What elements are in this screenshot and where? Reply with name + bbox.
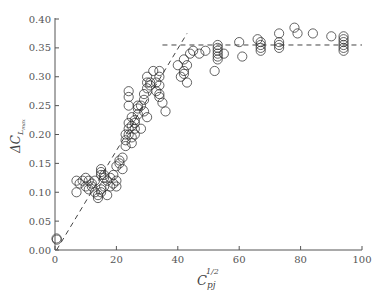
x-axis: 020406080100 (52, 246, 372, 265)
linear-trend-line (57, 33, 187, 250)
data-point-marker (127, 139, 136, 148)
data-point-marker (143, 72, 152, 81)
y-tick-label: 0.10 (29, 187, 51, 198)
y-axis-title: ΔCLmax (9, 119, 26, 154)
scatter-chart: 0.000.050.100.150.200.250.300.350.40 020… (0, 0, 382, 297)
y-tick-label: 0.05 (29, 216, 51, 227)
y-tick-label: 0.40 (29, 14, 51, 25)
data-point-marker (293, 29, 302, 38)
x-tick-label: 0 (52, 254, 58, 265)
y-tick-label: 0.20 (29, 129, 51, 140)
data-point-marker (136, 124, 145, 133)
x-tick-label: 20 (110, 254, 123, 265)
data-point-marker (121, 141, 130, 150)
x-title-sup: 1/2 (206, 267, 219, 276)
data-point-marker (118, 165, 127, 174)
data-point-marker (139, 107, 148, 116)
data-point-marker (124, 92, 133, 101)
data-point-marker (72, 188, 81, 197)
data-point-marker (103, 191, 112, 200)
data-point-marker (308, 29, 317, 38)
data-point-marker (173, 61, 182, 70)
y-title-subsub: max (20, 119, 26, 130)
data-point-marker (238, 52, 247, 61)
y-tick-label: 0.15 (29, 158, 51, 169)
data-point-marker (182, 78, 191, 87)
data-point-marker (124, 101, 133, 110)
data-point-marker (161, 107, 170, 116)
data-point-marker (195, 49, 204, 58)
data-point-marker (143, 113, 152, 122)
data-point-marker (327, 32, 336, 41)
y-tick-label: 0.00 (29, 245, 51, 256)
data-point-marker (179, 55, 188, 64)
x-axis-title: Cpj 1/2 (197, 267, 219, 290)
data-point-marker (201, 46, 210, 55)
y-tick-label: 0.30 (29, 71, 51, 82)
x-tick-label: 60 (233, 254, 246, 265)
data-point-marker (124, 87, 133, 96)
y-tick-label: 0.25 (29, 100, 51, 111)
y-axis: 0.000.050.100.150.200.250.300.350.40 (29, 14, 59, 256)
x-tick-label: 40 (171, 254, 184, 265)
data-point-marker (210, 66, 219, 75)
data-point-marker (155, 66, 164, 75)
data-point-marker (139, 89, 148, 98)
data-point-marker (182, 61, 191, 70)
y-title-main: ΔC (9, 135, 23, 154)
x-title-sub: pj (207, 280, 216, 290)
reference-lines (57, 33, 362, 250)
data-point-marker (219, 49, 228, 58)
data-point-marker (290, 23, 299, 32)
x-tick-label: 100 (352, 254, 371, 265)
svg-text:ΔCLmax: ΔCLmax (9, 119, 26, 154)
data-points (52, 23, 348, 244)
x-tick-label: 80 (294, 254, 307, 265)
data-point-marker (133, 110, 142, 119)
y-tick-label: 0.35 (29, 42, 51, 53)
data-point-marker (158, 98, 167, 107)
data-point-marker (275, 29, 284, 38)
